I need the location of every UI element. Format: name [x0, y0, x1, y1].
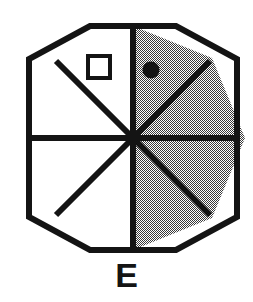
figure-stage: E — [0, 0, 253, 302]
dot-marker — [143, 62, 160, 79]
square-marker — [88, 56, 110, 78]
figure-label: E — [0, 258, 253, 292]
